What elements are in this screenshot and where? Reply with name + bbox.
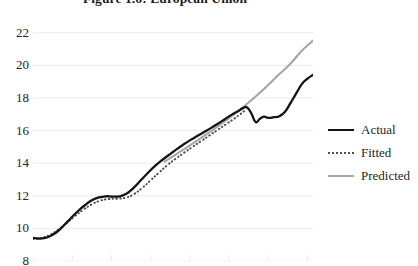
legend-label-actual: Actual [361, 122, 396, 138]
y-tick-label: 20 [3, 58, 29, 71]
y-tick-label: 10 [3, 221, 29, 234]
plot-area [33, 23, 313, 261]
legend-item-predicted: Predicted [327, 164, 418, 187]
y-axis: 810121416182022 [0, 0, 29, 266]
legend-item-fitted: Fitted [327, 141, 418, 164]
legend-item-actual: Actual [327, 118, 418, 141]
y-tick-label: 22 [3, 26, 29, 39]
chart-canvas [33, 23, 313, 261]
legend-swatch-predicted [327, 170, 355, 182]
gridlines [33, 33, 313, 261]
x-axis-ticks [33, 255, 307, 261]
y-tick-label: 16 [3, 124, 29, 137]
y-tick-label: 12 [3, 189, 29, 202]
chart-figure: Figure 1.6: European Union 8101214161820… [0, 0, 418, 266]
legend-label-predicted: Predicted [361, 168, 410, 184]
legend-swatch-fitted [327, 147, 355, 159]
chart-legend: Actual Fitted Predicted [327, 118, 418, 187]
y-tick-label: 8 [3, 254, 29, 266]
legend-label-fitted: Fitted [361, 145, 391, 161]
page-title: Figure 1.6: European Union [0, 0, 330, 7]
y-tick-label: 18 [3, 91, 29, 104]
legend-swatch-actual [327, 124, 355, 136]
data-series [33, 41, 313, 239]
y-tick-label: 14 [3, 156, 29, 169]
